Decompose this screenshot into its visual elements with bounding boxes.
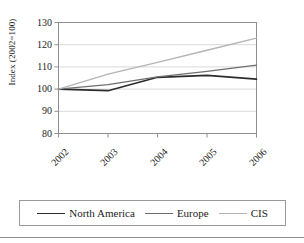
y-tick-label: 130 <box>22 18 52 28</box>
x-tick-label: 2004 <box>135 146 170 181</box>
legend-swatch-line-icon <box>145 213 173 214</box>
x-axis-tick-labels: 20022003200420052006 <box>0 138 304 194</box>
y-axis-title: Index (2002=100) <box>7 0 17 118</box>
legend-item-europe[interactable]: Europe <box>140 207 214 219</box>
x-tick-label: 2003 <box>85 146 120 181</box>
series-line-north-america <box>59 75 257 90</box>
x-tick-label: 2002 <box>36 146 71 181</box>
y-axis-tick-labels: 8090100110120130 <box>18 0 52 160</box>
legend-label: CIS <box>251 207 268 219</box>
y-tick-label: 120 <box>22 40 52 50</box>
series-lines <box>59 38 257 91</box>
bottom-divider <box>0 237 304 238</box>
y-tick-marks <box>55 23 59 134</box>
legend-swatch-line-icon <box>219 213 247 214</box>
y-tick-label: 100 <box>22 84 52 94</box>
legend-label: Europe <box>177 207 209 219</box>
x-tick-label: 2005 <box>184 146 219 181</box>
chart-legend: North AmericaEuropeCIS <box>19 200 286 226</box>
y-tick-label: 80 <box>22 129 52 139</box>
legend-item-cis[interactable]: CIS <box>214 207 273 219</box>
legend-item-north-america[interactable]: North America <box>32 207 140 219</box>
figure: Index (2002=100) 8090100110120130 200220… <box>0 0 304 243</box>
y-tick-label: 110 <box>22 62 52 72</box>
y-tick-label: 90 <box>22 106 52 116</box>
legend-label: North America <box>69 207 135 219</box>
line-chart: Index (2002=100) 8090100110120130 200220… <box>0 0 304 196</box>
x-tick-marks <box>59 134 257 138</box>
series-line-cis <box>59 38 257 89</box>
gridlines <box>59 23 257 112</box>
x-tick-label: 2006 <box>234 146 269 181</box>
legend-swatch-line-icon <box>37 213 65 214</box>
